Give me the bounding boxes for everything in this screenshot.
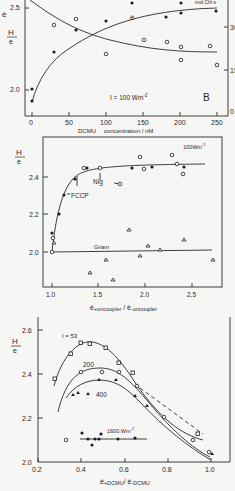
intensity-annotation: I = 100 Wm-2 [110,93,148,101]
xlabel-concentration: concentration / nM [104,128,153,134]
ytick-2-4: 2.4 [29,174,39,181]
panel-label-b: B [203,92,210,103]
chart-1-text: ė 2.5 H e 2.0 30 15 0 mol Chl-s ė I = 10… [2,0,235,134]
ytick-2-0: 2.0 [10,86,20,93]
xtick-100: 100 [100,119,112,126]
h-e-fit-curve [32,8,217,102]
label-200: 200 [83,361,94,368]
xtick-0-8: 0.8 [162,466,172,473]
ylabel-h: H [8,28,14,37]
ylabel-e: e [13,347,17,354]
ylabel-e: e [9,38,13,45]
xtick-2-5: 2.5 [187,291,196,298]
ytick-2-0: 2.0 [29,249,39,256]
xtick-50: 50 [65,119,73,126]
figure: ė 2.5 H e 2.0 30 15 0 mol Chl-s ė I = 10… [0,0,235,491]
fccp-fit-curve [52,164,205,252]
nig-label: Nig [93,178,103,186]
ytick-2-4: 2.4 [22,371,32,378]
xtick-150: 150 [137,119,149,126]
ytick-2-2: 2.2 [29,211,39,218]
i400-curve [66,380,211,460]
xtick-1-0: 1.0 [46,291,55,298]
xtick-2-0: 2.0 [140,291,149,298]
xtick-200: 200 [174,119,186,126]
xtick-0-2: 0.2 [32,466,42,473]
gram-label: Gram [94,244,109,250]
xtick-1-5: 1.5 [93,291,102,298]
label-i53: I = 53 [62,333,78,339]
yright-0: 0 [230,108,234,115]
xlabel: ė+uncoupler / ė-uncoupler [90,304,157,312]
label-1600: 1600 Wm-2 [107,426,135,434]
ylabel-h: H [12,337,18,346]
edot-left-label: ė [2,10,7,19]
ylabel-h: H [16,148,22,157]
label-400: 400 [96,391,107,398]
xtick-0-4: 0.4 [76,466,86,473]
intensity-annotation: 100Wm-2 [183,142,206,150]
ytick-2-0: 2.0 [22,459,32,466]
xtick-0-6: 0.6 [119,466,129,473]
chart-2 [43,137,222,287]
xlabel: ė+DCMU/ ė-DCMU [100,478,150,486]
yright-30: 30 [230,24,235,31]
xtick-250: 250 [211,119,223,126]
xtick-1-0: 1.0 [205,466,215,473]
open-markers [50,17,219,454]
xlabel-dcmu: DCMU [78,128,96,134]
edot-mid-label: ė [130,13,135,22]
fccp-label: FCCP [71,192,89,199]
e-fit-curve [30,0,217,52]
xtick-0: 0 [29,119,33,126]
ylabel-e: e [17,158,21,165]
gram-fit-line [52,250,212,252]
ytick-2-5: 2.5 [10,4,20,11]
right-unit: mol Chl-s [195,0,217,5]
yright-15: 15 [230,67,235,74]
filled-markers [30,1,217,455]
chart-2-frame [43,137,222,287]
ytick-2-6: 2.6 [22,327,32,334]
ytick-2-2: 2.2 [22,415,32,422]
